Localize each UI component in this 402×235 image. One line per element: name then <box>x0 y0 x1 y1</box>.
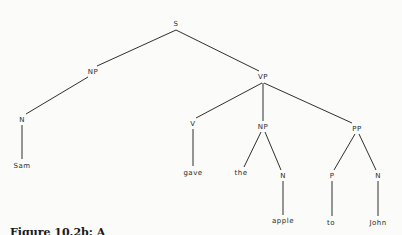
tree-node-v: V <box>190 120 195 128</box>
tree-edge-s-np1 <box>97 30 176 66</box>
tree-node-n1: N <box>19 116 25 124</box>
tree-node-p: P <box>330 172 335 180</box>
tree-edge-np2-the <box>244 132 261 167</box>
tree-edge-s-vp <box>176 30 259 71</box>
tree-node-sam: Sam <box>13 162 30 170</box>
tree-node-n2: N <box>280 172 286 180</box>
tree-node-n3: N <box>375 172 381 180</box>
tree-nodes: SNPVPNSamVNPPPgavetheNPNappletoJohn <box>13 20 386 227</box>
figure-caption: Figure 10.2b: A <box>10 226 105 235</box>
tree-node-apple: apple <box>272 217 294 225</box>
tree-edge-pp-p <box>334 134 355 170</box>
tree-node-gave: gave <box>183 169 202 177</box>
tree-edge-np2-n2 <box>265 132 281 170</box>
tree-node-np2: NP <box>258 123 268 131</box>
tree-edges <box>22 30 378 216</box>
tree-node-s: S <box>174 20 179 28</box>
tree-node-john: John <box>368 219 386 227</box>
parse-tree-diagram: SNPVPNSamVNPPPgavetheNPNappletoJohn <box>0 0 402 235</box>
tree-edge-vp-pp <box>264 83 352 123</box>
tree-edge-pp-n3 <box>359 134 376 170</box>
tree-node-np1: NP <box>88 68 98 76</box>
tree-node-the: the <box>235 169 248 177</box>
tree-node-vp: VP <box>258 73 268 81</box>
tree-node-pp: PP <box>352 125 361 133</box>
tree-edge-np1-n1 <box>26 77 88 114</box>
tree-edge-vp-v <box>196 83 262 118</box>
tree-node-to: to <box>327 219 335 227</box>
